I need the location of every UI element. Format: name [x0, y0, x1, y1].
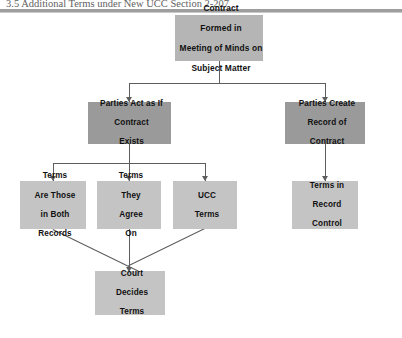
node-terms-in-both-records[interactable]: TermsAre Thosein BothRecords [20, 181, 86, 229]
node-ucc-terms-label: UCCTerms [173, 191, 237, 220]
node-court-decides-terms[interactable]: CourtDecidesTerms [95, 271, 165, 315]
node-terms-they-agree-on[interactable]: TermsTheyAgreeOn [97, 181, 161, 229]
node-terms-in-record-control[interactable]: Terms inRecordControl [292, 181, 358, 229]
node-parties-act-as-if[interactable]: Parties Act as IfContractExists [88, 102, 171, 144]
node-parties-act-as-if-label: Parties Act as IfContractExists [88, 99, 171, 147]
node-parties-create-record[interactable]: Parties CreateRecord ofContract [285, 102, 365, 144]
node-terms-in-record-control-label: Terms inRecordControl [292, 181, 358, 229]
node-contract-formed-label: ContractFormed inMeeting of Minds onSubj… [175, 3, 263, 73]
node-terms-they-agree-on-label: TermsTheyAgreeOn [97, 171, 161, 238]
edge-root-bus [129, 83, 325, 84]
node-court-decides-terms-label: CourtDecidesTerms [95, 269, 165, 317]
node-ucc-terms[interactable]: UCCTerms [173, 181, 237, 229]
node-parties-create-record-label: Parties CreateRecord ofContract [285, 99, 365, 147]
node-contract-formed[interactable]: ContractFormed inMeeting of Minds onSubj… [175, 15, 263, 61]
flowchart: ContractFormed inMeeting of Minds onSubj… [0, 13, 402, 338]
node-terms-in-both-records-label: TermsAre Thosein BothRecords [20, 171, 86, 238]
figure-page: 3.5 Additional Terms under New UCC Secti… [0, 0, 402, 338]
